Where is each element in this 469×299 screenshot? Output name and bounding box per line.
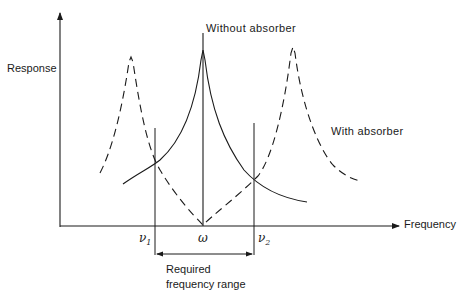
nu2-marker: ν2	[258, 232, 270, 244]
omega-marker: ω	[198, 232, 208, 244]
without-absorber-label: Without absorber	[206, 23, 296, 34]
with-absorber-label: With absorber	[331, 126, 403, 137]
range-label-line2: frequency range	[166, 279, 246, 290]
with-absorber-curve	[100, 47, 360, 225]
diagram-canvas	[0, 0, 469, 299]
nu1-marker: ν1	[139, 232, 151, 244]
x-axis-label: Frequency	[404, 219, 456, 230]
y-axis-label: Response	[7, 63, 57, 74]
range-label-line1: Required	[166, 264, 211, 275]
without-absorber-curve	[123, 50, 307, 202]
